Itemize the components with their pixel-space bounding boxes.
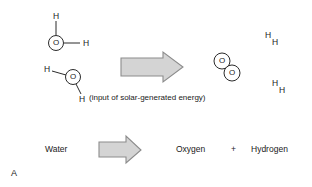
word-equation-product-2: Hydrogen: [251, 145, 288, 154]
word-equation-reactant: Water: [45, 145, 67, 154]
bond-o2-h-bottom: [76, 84, 81, 94]
oxygen-label-product-2: O: [229, 69, 235, 77]
hydrogen-label-w1-right: H: [83, 39, 89, 48]
word-equation-product-1: Oxygen: [176, 145, 205, 154]
hydrogen-label-h2-a-2: H: [272, 38, 278, 47]
water-molecule-2: [52, 70, 81, 95]
bond-o2-h-left: [52, 71, 66, 75]
oxygen-label-product-1: O: [219, 57, 225, 65]
reaction-arrow-top-icon: [121, 52, 183, 82]
oxygen-label-w1: O: [53, 39, 59, 47]
photolysis-of-water-diagram: H H O H H O (input of solar-generated en…: [0, 0, 312, 187]
hydrogen-label-h2-a-1: H: [265, 31, 271, 40]
hydrogen-label-w1-top: H: [53, 12, 59, 21]
oxygen-molecule-o2: [214, 53, 240, 81]
oxygen-label-w2: O: [70, 73, 76, 81]
word-equation-plus-sign: +: [231, 145, 236, 154]
panel-letter-label: A: [11, 169, 17, 178]
energy-input-caption: (input of solar-generated energy): [89, 94, 206, 102]
hydrogen-label-w2-left: H: [44, 65, 50, 74]
reaction-arrow-bottom-icon: [99, 136, 141, 163]
hydrogen-label-h2-b-2: H: [279, 86, 285, 95]
hydrogen-label-w2-bottom: H: [79, 95, 85, 104]
hydrogen-label-h2-b-1: H: [272, 79, 278, 88]
